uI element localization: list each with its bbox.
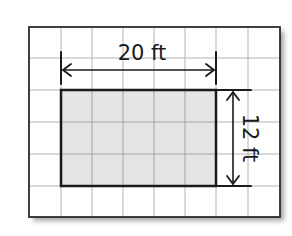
height-label: 12 ft — [238, 114, 262, 163]
area-diagram: 20 ft 12 ft — [0, 0, 292, 236]
shaded-rectangle — [61, 90, 216, 186]
width-label: 20 ft — [118, 41, 167, 65]
